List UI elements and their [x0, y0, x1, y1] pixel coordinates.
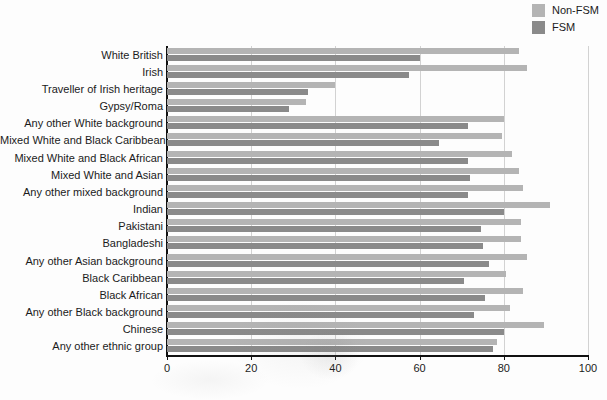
bar-non-fsm [167, 322, 544, 328]
bar-non-fsm [167, 288, 523, 294]
x-axis-tick-label: 40 [329, 363, 341, 374]
bar-non-fsm [167, 133, 502, 139]
y-axis-label-11: Pakistani [0, 221, 163, 232]
bar-fsm [167, 192, 468, 198]
bar-group [167, 288, 588, 305]
x-axis-tick-100 [588, 355, 589, 360]
bar-group [167, 116, 588, 133]
y-axis-category-labels: White BritishIrishTraveller of Irish her… [0, 46, 163, 355]
bar-fsm [167, 226, 481, 232]
y-axis-label-15: Black African [0, 290, 163, 301]
bar-non-fsm [167, 236, 521, 242]
bar-group [167, 271, 588, 288]
bar-non-fsm [167, 202, 550, 208]
bar-group [167, 185, 588, 202]
bar-non-fsm [167, 82, 335, 88]
bar-non-fsm [167, 65, 527, 71]
bar-non-fsm [167, 305, 510, 311]
bar-group [167, 48, 588, 65]
bar-fsm [167, 295, 485, 301]
y-axis-label-13: Any other Asian background [0, 256, 163, 267]
bar-group [167, 82, 588, 99]
bar-group [167, 236, 588, 253]
bar-fsm [167, 346, 493, 352]
bar-non-fsm [167, 99, 306, 105]
bar-group [167, 219, 588, 236]
chart-legend: Non-FSMFSM [532, 4, 599, 34]
y-axis-label-9: Any other mixed background [0, 187, 163, 198]
bar-non-fsm [167, 185, 523, 191]
y-axis-label-1: White British [0, 50, 163, 61]
x-axis-tick-label: 100 [579, 363, 597, 374]
bar-non-fsm [167, 254, 527, 260]
bar-fsm [167, 278, 464, 284]
bar-fsm [167, 158, 468, 164]
y-axis-label-2: Irish [0, 67, 163, 78]
bar-fsm [167, 243, 483, 249]
y-axis-label-5: Any other White background [0, 118, 163, 129]
y-axis-label-17: Chinese [0, 324, 163, 335]
x-axis-tick-label: 0 [164, 363, 170, 374]
bar-non-fsm [167, 168, 519, 174]
bar-non-fsm [167, 48, 519, 54]
x-axis-tick-label: 80 [498, 363, 510, 374]
bar-group [167, 99, 588, 116]
bar-non-fsm [167, 339, 497, 345]
bar-group [167, 305, 588, 322]
bar-fsm [167, 123, 468, 129]
gridline-100 [588, 46, 589, 355]
x-axis-tick-label: 20 [245, 363, 257, 374]
legend-swatch-icon [532, 4, 545, 17]
bar-fsm [167, 312, 474, 318]
bar-fsm [167, 89, 308, 95]
legend-item: FSM [532, 21, 575, 34]
bar-group [167, 151, 588, 168]
x-axis-tick-label: 60 [413, 363, 425, 374]
plot-area: 020406080100 [167, 46, 588, 355]
y-axis-label-7: Mixed White and Black African [0, 153, 163, 164]
y-axis-label-10: Indian [0, 204, 163, 215]
y-axis-label-16: Any other Black background [0, 307, 163, 318]
bar-non-fsm [167, 116, 504, 122]
bar-fsm [167, 261, 489, 267]
bar-non-fsm [167, 271, 506, 277]
y-axis-label-3: Traveller of Irish heritage [0, 84, 163, 95]
y-axis-label-4: Gypsy/Roma [0, 101, 163, 112]
legend-label: Non-FSM [552, 5, 599, 16]
bar-non-fsm [167, 151, 512, 157]
bar-fsm [167, 106, 289, 112]
y-axis-label-6: Mixed White and Black Caribbean [0, 135, 163, 146]
bar-fsm [167, 72, 409, 78]
bar-fsm [167, 55, 420, 61]
bar-group [167, 322, 588, 339]
legend-label: FSM [552, 22, 575, 33]
bar-fsm [167, 209, 504, 215]
bar-fsm [167, 140, 439, 146]
bar-fsm [167, 175, 470, 181]
bar-group [167, 254, 588, 271]
bar-group [167, 202, 588, 219]
bar-group [167, 133, 588, 150]
bar-non-fsm [167, 219, 521, 225]
legend-item: Non-FSM [532, 4, 599, 17]
legend-swatch-icon [532, 21, 545, 34]
y-axis-label-18: Any other ethnic group [0, 341, 163, 352]
y-axis-label-12: Bangladeshi [0, 238, 163, 249]
bar-group [167, 65, 588, 82]
bar-group [167, 168, 588, 185]
bar-fsm [167, 329, 504, 335]
y-axis-label-8: Mixed White and Asian [0, 170, 163, 181]
bar-group [167, 339, 588, 356]
y-axis-label-14: Black Caribbean [0, 273, 163, 284]
